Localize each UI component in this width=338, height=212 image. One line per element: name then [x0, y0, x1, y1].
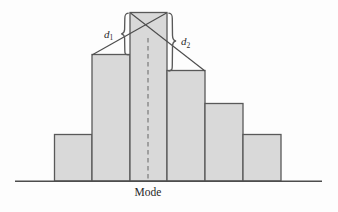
- brace-d2: [169, 13, 176, 71]
- label-d2-subscript: 2: [187, 41, 191, 50]
- brace-d1: [122, 13, 129, 55]
- histogram-bar: [92, 55, 130, 182]
- histogram-bars: [55, 13, 282, 182]
- label-d2: d2: [181, 35, 191, 50]
- histogram-svg: d1 d2 Mode: [0, 0, 338, 212]
- histogram-bar: [167, 71, 205, 182]
- histogram-figure: d1 d2 Mode: [0, 0, 338, 212]
- label-d1: d1: [104, 28, 114, 43]
- histogram-bar: [205, 104, 243, 182]
- label-mode: Mode: [135, 186, 162, 198]
- label-d1-subscript: 1: [110, 33, 114, 42]
- histogram-bar: [55, 135, 93, 182]
- histogram-bar: [243, 135, 281, 182]
